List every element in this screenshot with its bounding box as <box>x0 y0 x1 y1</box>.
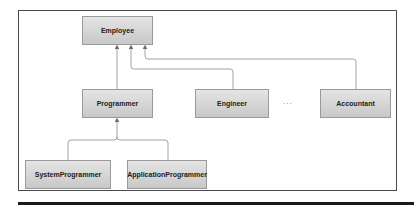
class-node-application-programmer: ApplicationProgrammer <box>127 160 207 189</box>
node-label: SystemProgrammer <box>35 171 102 178</box>
class-node-system-programmer: SystemProgrammer <box>25 160 111 189</box>
node-label: Employee <box>101 27 134 34</box>
page-rule <box>18 202 414 205</box>
node-label: ApplicationProgrammer <box>127 171 207 178</box>
class-node-accountant: Accountant <box>320 89 391 118</box>
class-node-programmer: Programmer <box>82 89 153 118</box>
more-classes-ellipsis: ... <box>283 97 293 106</box>
class-node-engineer: Engineer <box>195 89 269 118</box>
node-label: Programmer <box>97 100 139 107</box>
class-node-employee: Employee <box>82 16 153 45</box>
node-label: Accountant <box>336 100 375 107</box>
node-label: Engineer <box>217 100 247 107</box>
